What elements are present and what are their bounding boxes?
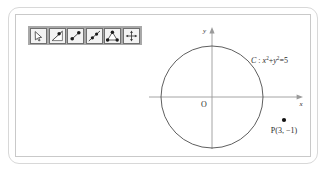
y-axis-arrowhead: [209, 27, 214, 33]
segment-with-points-icon: [69, 30, 82, 42]
x-axis-arrowhead: [297, 94, 303, 99]
circle-equation-value: 5: [284, 56, 288, 65]
point-on-object-icon: [51, 30, 64, 42]
tool-select-button[interactable]: [30, 28, 47, 44]
y-axis-label: y: [202, 27, 207, 35]
geometry-toolbar[interactable]: [28, 26, 142, 45]
x-axis: [149, 94, 303, 99]
point-P-label: P(3, −1): [271, 126, 298, 135]
tool-move-view-button[interactable]: [123, 28, 140, 44]
tool-segment-button[interactable]: [67, 28, 84, 44]
x-axis-label: x: [298, 100, 303, 108]
circle-equation-label: C : x2+y2=5: [251, 55, 288, 65]
tool-polygon-button[interactable]: [104, 28, 121, 44]
point-P-marker[interactable]: [282, 118, 286, 122]
polygon-triangle-icon: [106, 30, 119, 42]
origin-label: O: [201, 100, 207, 109]
line-icon: [88, 30, 101, 42]
tool-line-button[interactable]: [86, 28, 103, 44]
tool-point-on-object-button[interactable]: [49, 28, 66, 44]
y-axis: [209, 27, 214, 149]
move-four-arrows-icon: [125, 30, 138, 42]
geometry-canvas-panel[interactable]: y x O C : x2+y2=5 P(3, −1): [15, 14, 311, 157]
app-window: y x O C : x2+y2=5 P(3, −1): [8, 7, 318, 164]
cursor-arrow-icon: [32, 30, 45, 42]
